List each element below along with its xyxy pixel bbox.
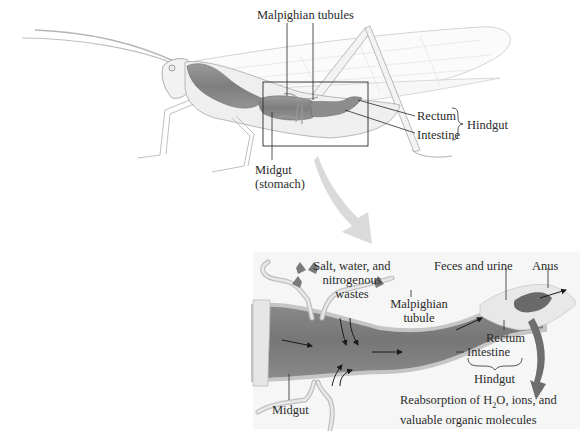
grasshopper-illustration [22,26,510,172]
label-malpighian-tubule: Malpighian tubule [384,297,454,325]
label-salt-line1: Salt, water, and [292,259,412,273]
callout-arrow-icon [314,156,372,244]
label-salt-line2: nitrogenous [292,273,412,287]
label-hindgut: Hindgut [467,118,508,132]
label-intestine: Intestine [417,128,460,142]
label-anus: Anus [532,259,558,273]
label-malpighian-line2: tubule [384,311,454,325]
label-malpighian-line1: Malpighian [384,297,454,311]
label-midgut: Midgut [255,163,292,177]
gut-cut-end [253,300,270,386]
label-reabsorption-line2: valuable organic molecules [400,413,557,427]
label-intestine-inset: Intestine [467,345,510,359]
diagram-artwork [0,0,582,431]
label-malpighian-tubules: Malpighian tubules [257,8,354,22]
label-midgut-stomach: (stomach) [255,177,305,191]
label-reabsorption-line1: Reabsorption of H2O, ions, and [400,393,557,413]
eye-icon [169,65,175,71]
label-feces-urine: Feces and urine [434,259,512,273]
label-reabsorption: Reabsorption of H2O, ions, and valuable … [400,393,557,427]
label-rectum: Rectum [417,109,456,123]
label-rectum-inset: Rectum [486,331,525,345]
label-hindgut-inset: Hindgut [474,372,515,386]
label-midgut-inset: Midgut [272,403,309,417]
label-salt-water: Salt, water, and nitrogenous wastes [292,259,412,301]
hindgut-brace-inset [468,358,522,370]
